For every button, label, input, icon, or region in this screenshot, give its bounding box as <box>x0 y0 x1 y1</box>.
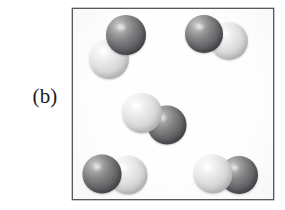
panel-label: (b) <box>22 86 68 107</box>
figure-panel: (b) <box>0 0 285 210</box>
dark-atom <box>185 15 223 53</box>
dark-atom <box>83 155 122 194</box>
light-atom <box>122 93 162 133</box>
dark-atom <box>106 15 146 55</box>
container-box <box>72 8 274 200</box>
light-atom <box>194 155 233 194</box>
